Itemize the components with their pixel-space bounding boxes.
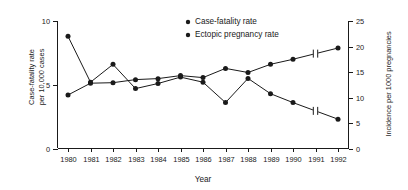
data-point xyxy=(111,62,116,67)
data-point xyxy=(178,73,183,78)
data-point xyxy=(291,100,296,105)
x-tick-label-1992: 1992 xyxy=(330,155,346,164)
right-axis-title: Incidence per 1000 pregnancies xyxy=(384,31,393,136)
data-point xyxy=(268,91,273,96)
legend-marker-icon xyxy=(186,33,190,37)
x-axis-title: Year xyxy=(195,175,212,184)
right-tick-label-10: 10 xyxy=(356,94,364,103)
x-tick-label-1981: 1981 xyxy=(83,155,99,164)
x-tick-label-1989: 1989 xyxy=(263,155,279,164)
x-tick-label-1985: 1985 xyxy=(173,155,189,164)
data-point xyxy=(88,81,93,86)
axis-break-mark xyxy=(313,106,318,116)
data-point xyxy=(223,66,228,71)
x-tick-label-1990: 1990 xyxy=(285,155,301,164)
left-tick-label-0: 0 xyxy=(46,145,50,154)
data-point xyxy=(133,77,138,82)
data-point xyxy=(246,70,251,75)
legend-marker-icon xyxy=(186,20,190,24)
right-tick-label-25: 25 xyxy=(356,17,364,26)
right-tick-label-5: 5 xyxy=(356,119,360,128)
line-chart: 0510 Case-fatality rate per 10,000 cases… xyxy=(0,0,408,190)
x-tick-label-1991: 1991 xyxy=(308,155,324,164)
legend-label: Case-fatality rate xyxy=(195,17,257,26)
right-tick-label-20: 20 xyxy=(356,43,364,52)
data-point xyxy=(201,75,206,80)
x-tick-label-1982: 1982 xyxy=(105,155,121,164)
legend-item-case-fatality: Case-fatality rate xyxy=(186,17,258,26)
left-tick-label-5: 5 xyxy=(46,81,50,90)
x-tick-label-1988: 1988 xyxy=(240,155,256,164)
data-point xyxy=(156,81,161,86)
data-point xyxy=(246,76,251,81)
data-point xyxy=(111,80,116,85)
x-tick-label-1984: 1984 xyxy=(150,155,166,164)
left-axis-title-line2: per 10,000 cases xyxy=(37,48,46,105)
data-point xyxy=(66,92,71,97)
left-axis-title-line1: Case-fatality rate xyxy=(27,49,36,105)
data-point xyxy=(223,100,228,105)
data-point xyxy=(66,34,71,39)
data-point xyxy=(336,46,341,51)
data-point xyxy=(268,62,273,67)
legend-item-ectopic-pregnancy: Ectopic pregnancy rate xyxy=(186,30,279,39)
data-point xyxy=(133,86,138,91)
right-tick-label-0: 0 xyxy=(356,145,360,154)
chart-figure: 0510 Case-fatality rate per 10,000 cases… xyxy=(0,0,408,190)
x-tick-label-1983: 1983 xyxy=(128,155,144,164)
data-point xyxy=(291,57,296,62)
axis-break-mark xyxy=(313,49,318,59)
x-tick-label-1980: 1980 xyxy=(60,155,76,164)
data-point xyxy=(336,117,341,122)
x-tick-label-1987: 1987 xyxy=(218,155,234,164)
data-point xyxy=(201,80,206,85)
legend-label: Ectopic pregnancy rate xyxy=(195,30,279,39)
x-tick-label-1986: 1986 xyxy=(195,155,211,164)
data-point xyxy=(156,76,161,81)
right-tick-label-15: 15 xyxy=(356,68,364,77)
left-tick-label-10: 10 xyxy=(42,17,50,26)
